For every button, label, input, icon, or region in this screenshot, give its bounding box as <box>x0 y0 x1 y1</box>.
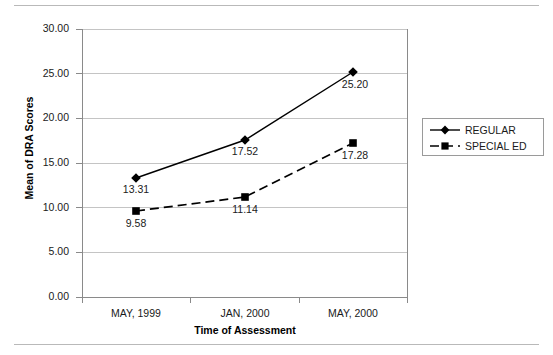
line-chart-figure: Mean of DRA Scores 30.00 25.00 20.00 15.… <box>0 0 553 355</box>
y-tick-label-15: 15.00 <box>9 157 69 168</box>
x-axis-title: Time of Assessment <box>82 324 408 336</box>
point-label-regular-2: 25.20 <box>320 78 390 90</box>
gridline-15 <box>82 163 407 164</box>
y-tick-label-25: 25.00 <box>9 68 69 79</box>
x-tick-mark <box>190 297 191 303</box>
gridline-5 <box>82 252 407 253</box>
x-tick-label-may-1999: MAY, 1999 <box>76 307 196 319</box>
y-tick-label-20: 20.00 <box>9 112 69 123</box>
plot-right-border <box>407 29 408 298</box>
gridline-30 <box>82 29 407 30</box>
y-axis-title: Mean of DRA Scores <box>23 73 35 223</box>
x-tick-label-may-2000: MAY, 2000 <box>293 307 413 319</box>
point-label-regular-1: 17.52 <box>210 145 280 157</box>
y-tick-label-10: 10.00 <box>9 202 69 213</box>
legend-item-regular[interactable]: REGULAR <box>429 122 516 138</box>
x-tick-mark <box>82 297 83 303</box>
x-tick-mark <box>299 297 300 303</box>
x-axis-line <box>82 297 408 298</box>
legend-label-regular: REGULAR <box>465 124 516 136</box>
point-label-special-ed-1: 11.14 <box>210 203 280 215</box>
legend-label-special-ed: SPECIAL ED <box>465 140 526 152</box>
x-tick-label-jan-2000: JAN, 2000 <box>185 307 305 319</box>
legend-marker-square-icon <box>429 140 461 152</box>
y-tick-label-5: 5.00 <box>9 246 69 257</box>
gridline-25 <box>82 73 407 74</box>
gridline-20 <box>82 118 407 119</box>
point-label-special-ed-2: 17.28 <box>320 149 390 161</box>
x-tick-mark <box>407 297 408 303</box>
point-label-regular-0: 13.31 <box>101 183 171 195</box>
legend-item-special-ed[interactable]: SPECIAL ED <box>429 138 526 154</box>
y-tick-label-30: 30.00 <box>9 23 69 34</box>
y-axis-line <box>82 29 83 298</box>
legend-marker-diamond-icon <box>429 124 461 136</box>
point-label-special-ed-0: 9.58 <box>101 217 171 229</box>
y-tick-label-0: 0.00 <box>9 291 69 302</box>
chart-legend: REGULAR SPECIAL ED <box>422 118 544 156</box>
